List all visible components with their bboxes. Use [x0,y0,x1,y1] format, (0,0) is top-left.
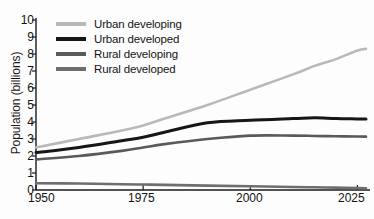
series-line-urban-developing [36,49,366,148]
series-line-rural-developed [36,183,366,188]
plot-area [0,0,374,219]
population-line-chart: Population (billions) 10 9 8 7 6 5 4 3 2… [0,0,374,219]
